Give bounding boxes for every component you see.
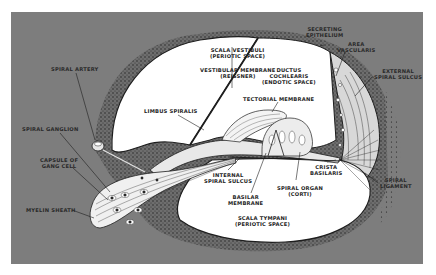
label-internal-spiral-sulcus: INTERNAL SPIRAL SULCUS <box>204 172 252 184</box>
label-spiral-ganglion: SPIRAL GANGLION <box>22 126 78 132</box>
label-tectorial-membrane: TECTORIAL MEMBRANE <box>243 96 314 102</box>
label-spiral-artery: SPIRAL ARTERY <box>51 66 99 72</box>
cochlea-diagram: SCALA VESTIBULI (PERIOTIC SPACE) VESTIBU… <box>0 0 436 275</box>
label-spiral-ligament: SPIRAL LIGAMENT <box>380 177 412 189</box>
label-ductus-cochlearis: DUCTUS COCHLEARIS (ENDOTIC SPACE) <box>262 67 316 85</box>
label-capsule-of-gang-cell: CAPSULE OF GANG CELL <box>40 157 78 169</box>
label-scala-vestibuli: SCALA VESTIBULI (PERIOTIC SPACE) <box>210 47 265 59</box>
label-crista-basilaris: CRISTA BASILARIS <box>310 164 342 176</box>
label-myelin-sheath: MYELIN SHEATH <box>26 207 76 213</box>
label-scala-tympani: SCALA TYMPANI (PERIOTIC SPACE) <box>235 215 290 227</box>
label-basilar-membrane: BASILAR MEMBRANE <box>228 194 263 206</box>
label-spiral-organ: SPIRAL ORGAN (CORTI) <box>277 185 323 197</box>
label-limbus-spiralis: LIMBUS SPIRALIS <box>144 108 198 114</box>
label-external-spiral-sulcus: EXTERNAL SPIRAL SULCUS <box>374 68 422 80</box>
label-area-vascularis: AREA VASCULARIS <box>337 41 375 53</box>
label-secreting-epithelium: SECRETING EPITHELIUM <box>306 26 343 38</box>
